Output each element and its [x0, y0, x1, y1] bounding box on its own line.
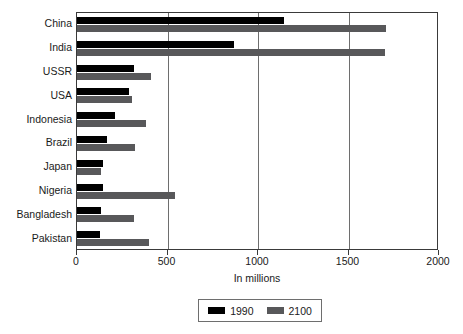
bar-bangladesh-2100 — [77, 215, 134, 222]
bar-ussr-2100 — [77, 73, 151, 80]
bar-row — [77, 61, 437, 85]
bar-nigeria-1990 — [77, 184, 103, 191]
legend-swatch-1990-icon — [208, 307, 225, 314]
legend-item-2100: 2100 — [267, 305, 312, 317]
legend-swatch-2100-icon — [267, 307, 284, 314]
bar-chart-figure: ChinaIndiaUSSRUSAIndonesiaBrazilJapanNig… — [0, 0, 463, 334]
bar-china-2100 — [77, 25, 386, 32]
bar-row — [77, 84, 437, 108]
bar-usa-2100 — [77, 96, 132, 103]
legend-item-1990: 1990 — [208, 305, 253, 317]
bar-row — [77, 227, 437, 251]
bar-brazil-2100 — [77, 144, 135, 151]
bar-pakistan-1990 — [77, 231, 100, 238]
bar-india-1990 — [77, 41, 234, 48]
bar-bangladesh-1990 — [77, 207, 101, 214]
y-axis-label-nigeria: Nigeria — [0, 184, 72, 196]
legend-label-2100: 2100 — [289, 305, 312, 317]
y-axis-label-indonesia: Indonesia — [0, 113, 72, 125]
x-axis-title: In millions — [234, 272, 281, 284]
bar-row — [77, 13, 437, 37]
bar-row — [77, 108, 437, 132]
x-axis-tick-labels: 0500100015002000 — [0, 255, 463, 269]
y-axis-label-usa: USA — [0, 89, 72, 101]
bar-brazil-1990 — [77, 136, 107, 143]
bar-row — [77, 203, 437, 227]
y-axis-label-brazil: Brazil — [0, 136, 72, 148]
y-axis-category-labels: ChinaIndiaUSSRUSAIndonesiaBrazilJapanNig… — [0, 12, 72, 250]
bar-indonesia-2100 — [77, 120, 146, 127]
x-tick-label-0: 0 — [73, 255, 79, 268]
bar-row — [77, 37, 437, 61]
bar-row — [77, 132, 437, 156]
bar-nigeria-2100 — [77, 192, 175, 199]
chart-legend: 1990 2100 — [198, 299, 322, 322]
y-axis-label-pakistan: Pakistan — [0, 232, 72, 244]
legend-label-1990: 1990 — [230, 305, 253, 317]
bar-japan-2100 — [77, 168, 101, 175]
y-axis-label-ussr: USSR — [0, 65, 72, 77]
y-axis-label-china: China — [0, 17, 72, 29]
bar-rows — [77, 13, 437, 249]
bar-china-1990 — [77, 17, 284, 24]
bar-row — [77, 180, 437, 204]
y-axis-label-bangladesh: Bangladesh — [0, 208, 72, 220]
x-tick-label-1000: 1000 — [245, 255, 268, 268]
bar-indonesia-1990 — [77, 112, 115, 119]
x-tick-label-2000: 2000 — [426, 255, 449, 268]
y-axis-label-japan: Japan — [0, 160, 72, 172]
y-axis-label-india: India — [0, 41, 72, 53]
x-tick-label-1500: 1500 — [336, 255, 359, 268]
bar-ussr-1990 — [77, 65, 134, 72]
bar-japan-1990 — [77, 160, 103, 167]
plot-area — [76, 12, 438, 250]
bar-india-2100 — [77, 49, 385, 56]
x-tick-label-500: 500 — [158, 255, 176, 268]
bar-row — [77, 156, 437, 180]
bar-usa-1990 — [77, 88, 129, 95]
bar-pakistan-2100 — [77, 239, 149, 246]
